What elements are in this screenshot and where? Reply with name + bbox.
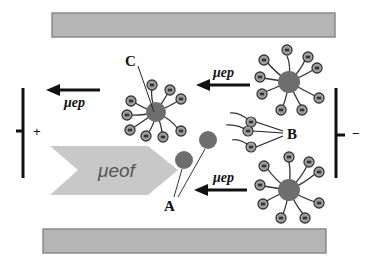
cathode-electrode: − — [336, 88, 360, 178]
micelle-diagram: + − μeof μep μep μep — [0, 0, 374, 267]
diagram-canvas: + − μeof μep μep μep — [0, 0, 374, 267]
capillary-wall-bottom — [43, 229, 326, 253]
eof-arrow: μeof — [50, 146, 178, 195]
mu-ep-label-2: μep — [212, 65, 234, 80]
mu-ep-arrow-bottom: μep — [194, 170, 247, 196]
capillary-wall-top — [52, 13, 335, 37]
anode-electrode: + — [16, 88, 41, 178]
anode-sign: + — [33, 124, 41, 139]
label-a: A — [164, 198, 175, 214]
micelle-top-right — [255, 45, 324, 115]
mu-ep-arrow-top: μep — [196, 65, 250, 91]
label-c: C — [125, 53, 136, 69]
micelle-bottom-right — [255, 152, 324, 223]
mu-ep-arrow-left: μep — [46, 84, 100, 110]
surfactant-monomers-b: B — [226, 113, 297, 152]
mu-ep-label-3: μep — [212, 170, 234, 185]
cathode-sign: − — [352, 126, 360, 141]
mu-eof-label: μeof — [97, 160, 137, 181]
label-b: B — [287, 126, 297, 142]
mu-ep-label-1: μep — [63, 95, 85, 110]
